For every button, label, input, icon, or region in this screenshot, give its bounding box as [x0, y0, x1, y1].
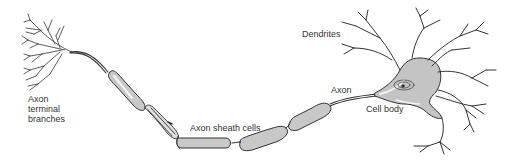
axon	[70, 52, 108, 73]
axon-sheath-cell	[177, 138, 231, 148]
label-line: Axon	[28, 94, 65, 104]
label-cell-body: Cell body	[366, 104, 404, 114]
neuron-diagram	[0, 0, 505, 164]
label-axon-terminal-branches: Axon terminal branches	[28, 94, 65, 124]
label-line: branches	[28, 114, 65, 124]
label-dendrites: Dendrites	[302, 29, 341, 39]
axon-sheath-cell	[288, 103, 330, 130]
label-line: terminal	[28, 104, 65, 114]
axon-terminal-branches	[22, 14, 72, 90]
axon-sheath-cell-wrapped	[145, 105, 179, 139]
label-axon: Axon	[331, 85, 352, 95]
label-axon-sheath-cells: Axon sheath cells	[190, 123, 261, 133]
